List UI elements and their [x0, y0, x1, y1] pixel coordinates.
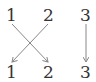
top-label-1: 1: [6, 5, 17, 25]
bottom-label-3: 3: [80, 62, 91, 82]
bottom-label-2: 2: [43, 62, 54, 82]
top-label-2: 2: [43, 5, 54, 25]
bottom-label-1: 1: [6, 62, 17, 82]
permutation-diagram: 1 2 3 1 2 3: [0, 0, 96, 82]
top-label-3: 3: [80, 5, 91, 25]
